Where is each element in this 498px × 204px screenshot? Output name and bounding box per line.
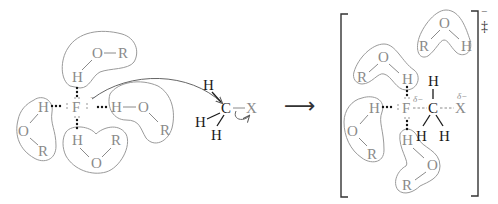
- ts-charge: −: [481, 5, 487, 17]
- solvent-bottom-o: O: [91, 155, 102, 171]
- ts-leaving-group-partial-charge: δ−: [457, 91, 467, 101]
- solvent-bottom-h: H: [72, 132, 83, 148]
- ts-top-solvent-r: R: [357, 69, 367, 85]
- ts-fluorine: F: [402, 100, 410, 116]
- ts-bottom-solvent-h: H: [402, 132, 413, 148]
- ts-left-solvent-h: H: [369, 100, 380, 116]
- ts-top-solvent-o: O: [378, 49, 389, 65]
- solvated-fluoride: F − H O R H O R H O R H O R: [17, 31, 222, 173]
- ts-free-solvent-h: H: [461, 38, 472, 54]
- ts-h-bottom-right: H: [439, 128, 450, 144]
- ts-leaving-group: X: [455, 100, 466, 116]
- solvent-left-r: R: [38, 143, 48, 159]
- solvent-right-o: O: [138, 99, 149, 115]
- reaction-arrow: ⟶: [284, 93, 316, 118]
- ts-free-solvent-o: O: [439, 15, 450, 31]
- fluoride-atom: F: [72, 99, 80, 115]
- leaving-group-x: X: [246, 100, 257, 116]
- left-bracket: [341, 14, 348, 197]
- ts-bottom-solvent-o: O: [427, 157, 438, 173]
- ts-bottom-solvent-r: R: [402, 177, 412, 193]
- substrate-h-top: H: [203, 77, 214, 93]
- solvent-bottom-r: R: [111, 132, 121, 148]
- ts-free-solvent-r: R: [419, 38, 429, 54]
- right-bracket: [471, 11, 478, 196]
- solvent-top-r: R: [118, 45, 128, 61]
- solvent-top-o: O: [92, 45, 103, 61]
- solvent-left-h: H: [38, 99, 49, 115]
- solvent-top-h: H: [72, 69, 83, 85]
- transition-state: − ‡ F δ− C X δ− H H H: [341, 5, 488, 197]
- double-dagger-symbol: ‡: [481, 19, 488, 34]
- solvent-right-r: R: [160, 122, 170, 138]
- diagram-svg: F − H O R H O R H O R H O R H C H: [0, 0, 498, 204]
- ts-carbon: C: [428, 100, 438, 116]
- ts-top-solvent-h: H: [402, 71, 413, 87]
- solvent-left-o: O: [18, 123, 29, 139]
- methyl-substrate: H C H H X: [195, 77, 257, 143]
- solvent-right-h: H: [111, 99, 122, 115]
- ts-fluorine-partial-charge: δ−: [413, 94, 423, 104]
- ts-h-bottom-left: H: [416, 128, 427, 144]
- substrate-carbon: C: [221, 100, 231, 116]
- sn2-solvation-diagram: F − H O R H O R H O R H O R H C H: [0, 0, 498, 204]
- ts-left-solvent-o: O: [347, 123, 358, 139]
- ts-h-top: H: [428, 73, 439, 89]
- substrate-h-left: H: [195, 114, 206, 130]
- substrate-h-bottom: H: [211, 127, 222, 143]
- ts-left-solvent-r: R: [367, 146, 377, 162]
